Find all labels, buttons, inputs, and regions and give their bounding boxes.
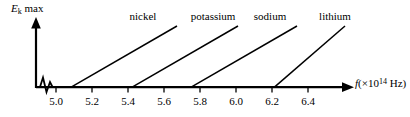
y-axis-arrow-icon [31, 17, 41, 29]
series-line-sodium [192, 26, 297, 87]
x-axis-tick-labels: 5.0 5.2 5.4 5.6 5.8 6.0 6.2 6.4 [49, 95, 315, 107]
x-tick-label: 5.4 [121, 95, 135, 107]
data-series-lines [72, 26, 345, 87]
y-axis-label: Ek max [11, 2, 43, 18]
x-tick-label: 5.8 [193, 95, 207, 107]
x-tick-label: 6.2 [265, 95, 279, 107]
x-axis-label-exponent: 14 [379, 77, 387, 86]
series-line-potassium [133, 26, 238, 87]
y-axis-label-rest: max [24, 2, 43, 14]
series-label-sodium: sodium [254, 10, 287, 22]
x-axis-break-icon [40, 78, 53, 93]
series-label-potassium: potassium [191, 10, 236, 22]
x-tick-label: 5.2 [85, 95, 99, 107]
x-axis-arrow-icon [342, 82, 354, 92]
x-tick-label: 5.0 [49, 95, 63, 107]
x-axis [36, 82, 354, 92]
series-label-nickel: nickel [130, 10, 157, 22]
y-axis-label-symbol: E [11, 2, 18, 14]
series-line-nickel [72, 26, 177, 87]
chart-canvas: 5.0 5.2 5.4 5.6 5.8 6.0 6.2 6.4 nickel p… [0, 0, 410, 117]
x-axis-label-close: Hz) [387, 77, 406, 89]
x-axis-label-open: (×10 [358, 77, 379, 89]
x-tick-label: 5.6 [157, 95, 171, 107]
y-axis-label-subscript: k [18, 7, 22, 16]
x-axis-label: f(×1014 Hz) [355, 75, 406, 90]
series-label-lithium: lithium [319, 10, 351, 22]
photoelectric-effect-figure: 5.0 5.2 5.4 5.6 5.8 6.0 6.2 6.4 nickel p… [0, 0, 410, 117]
y-axis [31, 17, 41, 88]
x-tick-label: 6.4 [301, 95, 315, 107]
series-line-lithium [275, 26, 345, 87]
x-tick-label: 6.0 [229, 95, 243, 107]
series-labels: nickel potassium sodium lithium [130, 10, 352, 22]
